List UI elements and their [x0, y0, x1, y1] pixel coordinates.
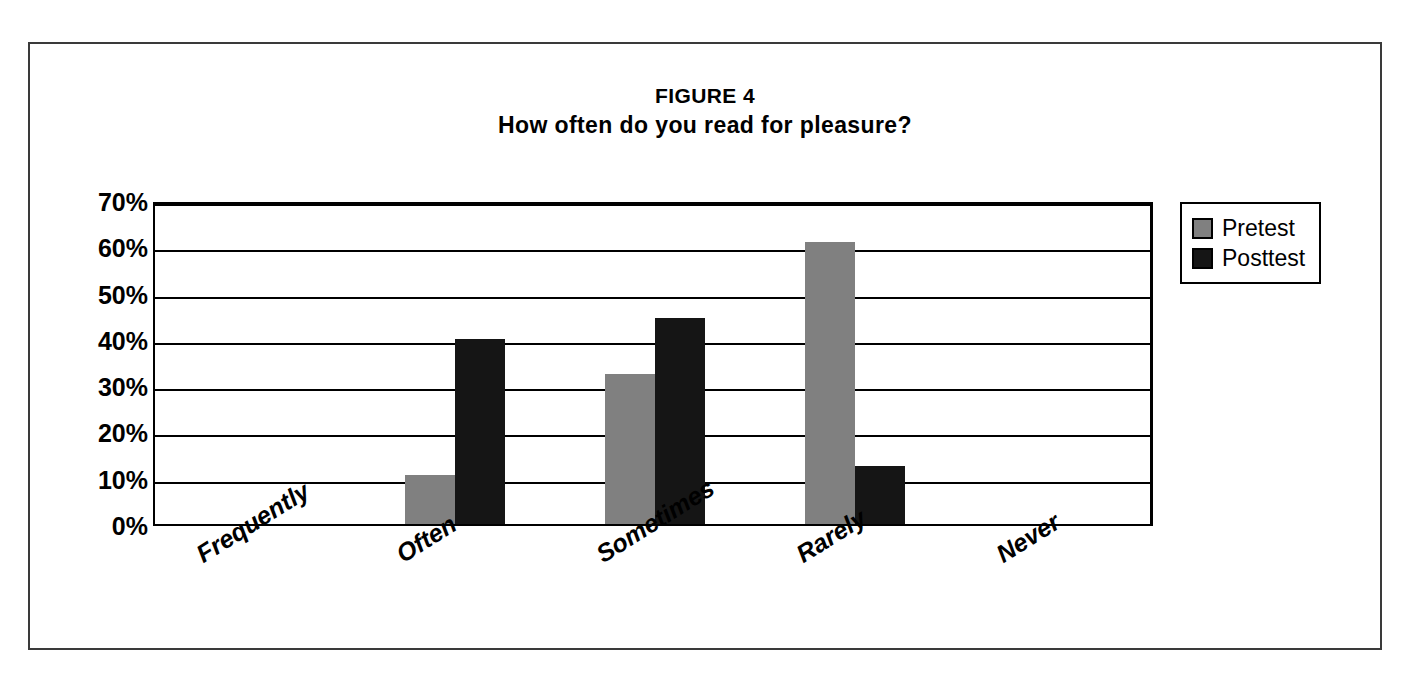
y-axis-tick: 20%	[98, 419, 148, 448]
gridline-30	[155, 389, 1150, 391]
figure-number-title: FIGURE 4	[30, 82, 1380, 110]
figure-page: { "figure": { "title_main": "FIGURE 4", …	[0, 0, 1410, 687]
legend: PretestPosttest	[1180, 202, 1321, 284]
posttest-swatch-icon	[1192, 248, 1213, 269]
x-axis: FrequentlyOftenSometimesRarelyNever	[153, 530, 1153, 640]
plot-region	[153, 202, 1153, 526]
plot-area	[153, 202, 1153, 526]
y-axis-tick: 60%	[98, 234, 148, 263]
y-axis-tick: 50%	[98, 280, 148, 309]
bar-sometimes-pretest	[605, 374, 655, 524]
gridline-50	[155, 297, 1150, 299]
legend-item-pretest[interactable]: Pretest	[1192, 213, 1305, 243]
gridline-20	[155, 435, 1150, 437]
figure-border: FIGURE 4 How often do you read for pleas…	[28, 42, 1382, 650]
y-axis-tick: 30%	[98, 373, 148, 402]
legend-item-posttest[interactable]: Posttest	[1192, 243, 1305, 273]
y-axis-tick: 70%	[98, 188, 148, 217]
y-axis: 70%60%50%40%30%20%10%0%	[60, 202, 148, 526]
gridline-60	[155, 250, 1150, 252]
y-axis-tick: 10%	[98, 465, 148, 494]
legend-label: Pretest	[1222, 215, 1295, 242]
bar-often-posttest	[455, 339, 505, 524]
chart-title-block: FIGURE 4 How often do you read for pleas…	[30, 82, 1380, 140]
figure-question-title: How often do you read for pleasure?	[30, 110, 1380, 140]
legend-label: Posttest	[1222, 245, 1305, 272]
gridline-40	[155, 343, 1150, 345]
y-axis-tick: 0%	[112, 512, 148, 541]
y-axis-tick: 40%	[98, 326, 148, 355]
gridline-70	[155, 204, 1150, 206]
pretest-swatch-icon	[1192, 218, 1213, 239]
